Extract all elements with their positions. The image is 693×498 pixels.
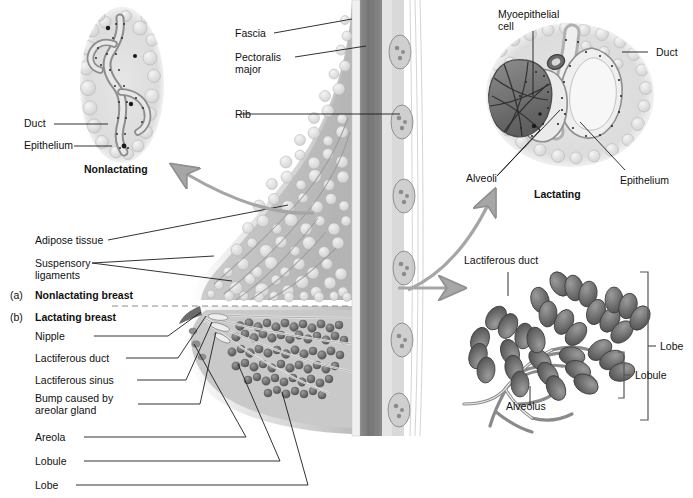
label-epithelium-nonlactating: Epithelium (24, 139, 73, 151)
artwork-layer (0, 0, 693, 498)
panel-b-label: Lactating breast (35, 311, 116, 323)
label-pectoralis-major: Pectoralis major (235, 51, 281, 75)
label-lobule-inset: Lobule (635, 369, 667, 381)
label-suspensory-ligaments: Suspensory ligaments (35, 257, 90, 281)
lobe-bracket (640, 272, 656, 420)
label-lactiferous-duct: Lactiferous duct (35, 352, 109, 364)
panel-a-label: Nonlactating breast (35, 289, 133, 301)
label-lactiferous-duct-lobe: Lactiferous duct (464, 254, 538, 266)
panel-a-key: (a) (10, 289, 23, 301)
pectoralis-major-band (360, 0, 382, 436)
inset-lobe-artwork (464, 268, 656, 432)
label-fascia: Fascia (235, 27, 266, 39)
label-duct-nonlactating: Duct (24, 117, 46, 129)
label-lobe-cross-section: Lobe (35, 479, 58, 491)
label-rib: Rib (235, 108, 251, 120)
lobe-alveoli (466, 268, 654, 403)
label-lobule-cross-section: Lobule (35, 455, 67, 467)
label-nipple: Nipple (35, 330, 65, 342)
chest-wall (352, 0, 423, 436)
label-lobe-inset: Lobe (660, 340, 683, 352)
caption-nonlactating: Nonlactating (84, 163, 148, 175)
label-duct-lactating: Duct (656, 46, 678, 58)
label-adipose-tissue: Adipose tissue (35, 234, 103, 246)
label-areolar-gland-bump: Bump caused by areolar gland (35, 392, 113, 416)
arrow-to-lactating-inset (408, 192, 494, 290)
inset-nonlactating-artwork (79, 7, 164, 163)
label-alveolus: Alveolus (506, 400, 546, 412)
label-epithelium-lactating: Epithelium (620, 174, 669, 186)
label-areola: Areola (35, 431, 65, 443)
label-alveoli: Alveoli (466, 172, 497, 184)
panel-b-key: (b) (10, 311, 23, 323)
label-lactiferous-sinus: Lactiferous sinus (35, 374, 114, 386)
label-myoepithelial-cell: Myoepithelial cell (498, 8, 559, 32)
figure-canvas: Duct Epithelium Nonlactating Fascia Pect… (0, 0, 693, 498)
inset-lactating-artwork (486, 22, 654, 168)
caption-lactating: Lactating (534, 188, 581, 200)
fascia-band (352, 0, 360, 436)
